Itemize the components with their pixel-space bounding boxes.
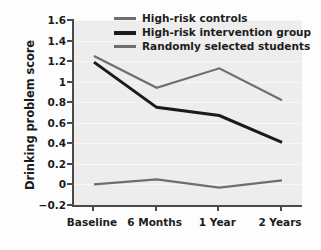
legend-line-icon (114, 45, 136, 48)
x-axis-line (72, 205, 302, 207)
y-tick-label: 0.4 (26, 137, 66, 149)
x-tick-mark (280, 205, 282, 211)
y-tick-mark (67, 122, 74, 124)
x-tick-mark (217, 205, 219, 211)
legend-line-icon (114, 17, 136, 20)
legend-item-label: Randomly selected students (142, 40, 310, 53)
x-tick-label: Baseline (67, 216, 117, 228)
x-tick-label: 2 Years (258, 216, 301, 228)
y-axis-tick-labels: 1.61.41.210.80.60.40.20−0.2 (22, 0, 66, 250)
y-tick-label: 0.8 (26, 96, 66, 108)
series-line (94, 179, 282, 187)
y-tick-label: 1.6 (26, 14, 66, 26)
legend-item[interactable]: High-risk intervention group (114, 26, 311, 39)
y-tick-mark (67, 101, 74, 103)
legend-item-label: High-risk controls (142, 12, 248, 25)
y-tick-mark (67, 60, 74, 62)
y-tick-mark (67, 163, 74, 165)
x-tick-label: 1 Year (199, 216, 236, 228)
chart-legend: High-risk controlsHigh-risk intervention… (114, 12, 311, 53)
legend-line-icon (114, 31, 136, 35)
legend-item[interactable]: High-risk controls (114, 12, 311, 25)
y-tick-label: 0 (26, 178, 66, 190)
y-tick-label: 1.2 (26, 55, 66, 67)
y-tick-label: 0.6 (26, 117, 66, 129)
legend-item-label: High-risk intervention group (142, 26, 311, 39)
y-tick-label: −0.2 (26, 199, 66, 211)
y-tick-mark (67, 142, 74, 144)
series-line (94, 62, 282, 142)
legend-item[interactable]: Randomly selected students (114, 40, 311, 53)
x-tick-mark (155, 205, 157, 211)
y-tick-mark (67, 19, 74, 21)
series-line (94, 56, 282, 100)
chart-figure: Drinking problem score 1.61.41.210.80.60… (0, 0, 321, 250)
y-tick-label: 1 (26, 76, 66, 88)
x-tick-label: 6 Months (127, 216, 182, 228)
y-tick-label: 0.2 (26, 158, 66, 170)
y-tick-mark (67, 40, 74, 42)
x-tick-mark (92, 205, 94, 211)
y-tick-mark (67, 81, 74, 83)
y-tick-mark (67, 183, 74, 185)
y-tick-label: 1.4 (26, 35, 66, 47)
